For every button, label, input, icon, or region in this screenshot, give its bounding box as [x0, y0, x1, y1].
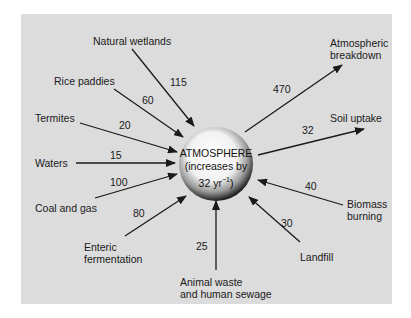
value-termites: 20	[119, 119, 131, 131]
label-soil-uptake: Soil uptake	[330, 112, 382, 124]
value-waters: 15	[110, 149, 122, 161]
atmosphere-increase-text: (increases by	[176, 160, 256, 173]
atmosphere-rate: 32 yr−1)	[176, 173, 256, 190]
label-atmospheric-breakdown: Atmospheric breakdown	[330, 37, 388, 61]
label-enteric-fermentation: Enteric fermentation	[84, 241, 142, 265]
value-atmospheric-breakdown: 470	[273, 83, 291, 95]
label-termites: Termites	[35, 112, 75, 124]
arrow-biomass	[258, 180, 343, 205]
label-natural-wetlands: Natural wetlands	[93, 35, 171, 47]
atmosphere-label: ATMOSPHERE (increases by 32 yr−1)	[176, 147, 256, 190]
arrow-coal-gas	[95, 174, 177, 198]
value-natural-wetlands: 115	[170, 76, 187, 88]
value-rice-paddies: 60	[142, 94, 154, 106]
label-rice-paddies: Rice paddies	[54, 75, 115, 87]
value-enteric-fermentation: 80	[133, 207, 145, 219]
value-landfill: 30	[281, 217, 293, 229]
value-animal-waste: 25	[196, 240, 208, 252]
label-animal-waste: Animal waste and human sewage	[180, 276, 272, 300]
label-landfill: Landfill	[300, 251, 333, 263]
value-soil-uptake: 32	[302, 124, 314, 136]
value-biomass-burning: 40	[305, 180, 317, 192]
value-coal-gas: 100	[110, 176, 128, 188]
atmosphere-title: ATMOSPHERE	[176, 147, 256, 160]
arrow-atmospheric-breakdown	[245, 65, 342, 132]
label-coal-gas: Coal and gas	[35, 202, 97, 214]
label-biomass-burning: Biomass burning	[347, 198, 387, 222]
label-waters: Waters	[35, 157, 68, 169]
